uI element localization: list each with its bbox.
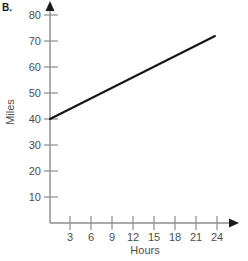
x-axis-ticks: 3 6 9 12 15 18 21 24 (67, 216, 223, 243)
x-tick-label: 24 (211, 231, 223, 243)
y-tick-label: 20 (29, 165, 41, 177)
line-chart-plot: 80 70 60 50 40 30 20 10 3 6 9 1 (0, 0, 248, 261)
y-tick-label: 50 (29, 87, 41, 99)
chart-figure: B. 80 70 60 50 40 30 20 10 (0, 0, 248, 261)
x-tick-label: 18 (169, 231, 181, 243)
y-tick-label: 30 (29, 139, 41, 151)
x-axis-arrow-icon (229, 219, 239, 228)
y-tick-label: 10 (29, 191, 41, 203)
data-series-line (50, 36, 215, 119)
y-tick-label: 40 (29, 113, 41, 125)
y-axis-title: Miles (4, 99, 16, 125)
y-axis-arrow-icon (46, 1, 55, 11)
x-tick-label: 3 (67, 231, 73, 243)
x-tick-label: 9 (109, 231, 115, 243)
x-tick-label: 21 (190, 231, 202, 243)
x-axis-title: Hours (130, 244, 160, 256)
x-tick-label: 12 (127, 231, 139, 243)
x-tick-label: 15 (148, 231, 160, 243)
y-tick-label: 80 (29, 9, 41, 21)
y-tick-label: 70 (29, 35, 41, 47)
y-axis-ticks: 80 70 60 50 40 30 20 10 (29, 9, 58, 203)
x-tick-label: 6 (88, 231, 94, 243)
y-tick-label: 60 (29, 61, 41, 73)
